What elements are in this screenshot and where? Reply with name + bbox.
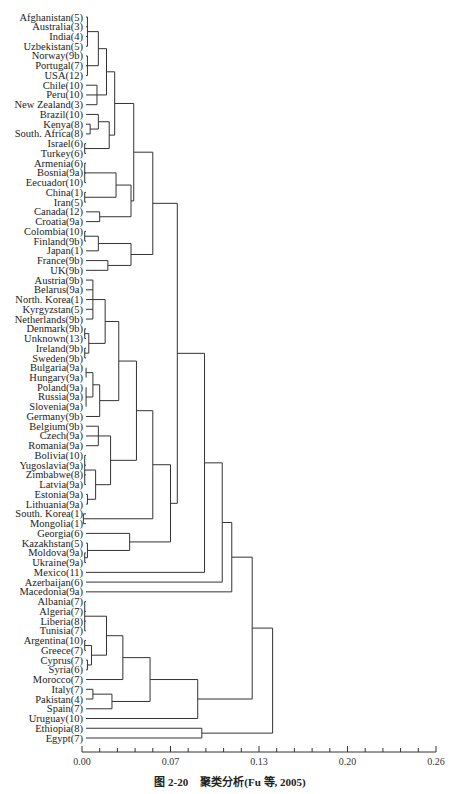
x-tick-label: 0.00 xyxy=(73,756,91,767)
x-tick-label: 0.26 xyxy=(427,756,445,767)
dendrogram-figure: Afghanistan(5)Australia(3)India(4)Uzbeki… xyxy=(0,0,459,794)
x-tick-label: 0.07 xyxy=(162,756,180,767)
figure-caption: 图 2-20聚类分析(Fu 等, 2005) xyxy=(154,775,306,789)
x-axis: 0.000.070.130.200.26 xyxy=(73,746,445,767)
dendrogram-tree xyxy=(83,17,272,738)
leaf-labels: Afghanistan(5)Australia(3)India(4)Uzbeki… xyxy=(14,12,83,745)
x-tick-label: 0.13 xyxy=(250,756,268,767)
x-tick-label: 0.20 xyxy=(339,756,357,767)
leaf-label: Egypt(7) xyxy=(46,733,84,745)
